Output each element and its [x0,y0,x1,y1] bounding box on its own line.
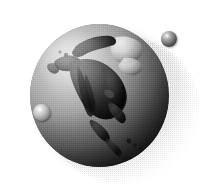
globe-dither-texture [30,24,169,167]
earth-globe [30,24,169,167]
image-canvas: Earth globe with two small spheres North… [0,0,202,184]
surface-sphere [33,104,50,121]
satellite-sphere-highlight [165,34,170,39]
surface-sphere-label: small light sphere [0,0,1,1]
surface-sphere-highlight [37,107,43,112]
globe-region-label: North America [0,0,1,1]
image-title: Earth globe with two small spheres [0,0,1,1]
satellite-sphere [161,31,177,47]
satellite-sphere-label: small dark sphere [0,0,1,1]
